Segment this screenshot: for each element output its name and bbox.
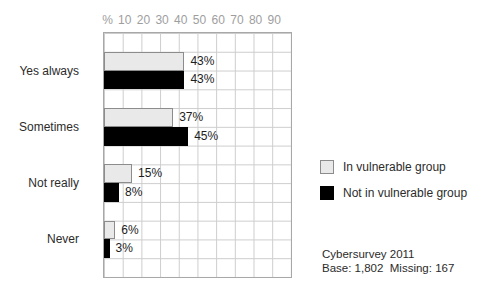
category-label-yes-always: Yes always [0,63,79,79]
value-label-sometimes-in-vulnerable-group: 37% [179,110,203,125]
axis-unit-label: % [102,13,113,27]
value-label-not-really-not-in-vulnerable-group: 8% [125,185,142,200]
source-note: Cybersurvey 2011 Base: 1,802 Missing: 16… [322,247,454,275]
axis-tick-80: 80 [249,13,262,27]
axis-tick-70: 70 [230,13,243,27]
axis-tick-40: 40 [174,13,187,27]
plot-area: 43%43%37%45%15%8%6%3% [103,32,292,278]
legend-label-in-vulnerable-group: In vulnerable group [343,160,446,174]
legend-swatch-not-in-vulnerable-group [320,186,334,200]
legend-swatch-in-vulnerable-group [320,160,334,174]
bar-not-in-vulnerable-group-never [104,239,110,258]
legend-label-not-in-vulnerable-group: Not in vulnerable group [343,186,467,200]
value-label-yes-always-in-vulnerable-group: 43% [190,54,214,69]
category-label-never: Never [0,231,79,247]
bar-in-vulnerable-group-never [104,221,115,240]
axis-tick-20: 20 [137,13,150,27]
bar-chart: % 102030405060708090 43%43%37%45%15%8%6%… [0,0,494,298]
value-label-not-really-in-vulnerable-group: 15% [138,166,162,181]
source-line-2: Base: 1,802 Missing: 167 [322,261,454,275]
bar-not-in-vulnerable-group-sometimes [104,127,188,146]
bar-in-vulnerable-group-not-really [104,164,132,183]
value-label-never-in-vulnerable-group: 6% [121,223,138,238]
bar-in-vulnerable-group-yes-always [104,52,184,71]
legend: In vulnerable groupNot in vulnerable gro… [320,160,467,212]
bar-not-in-vulnerable-group-not-really [104,183,119,202]
legend-item-in-vulnerable-group: In vulnerable group [320,160,467,174]
category-label-not-really: Not really [0,175,79,191]
category-label-sometimes: Sometimes [0,119,79,135]
value-label-yes-always-not-in-vulnerable-group: 43% [190,72,214,87]
axis-tick-30: 30 [155,13,168,27]
axis-tick-60: 60 [212,13,225,27]
axis-tick-50: 50 [193,13,206,27]
value-label-never-not-in-vulnerable-group: 3% [116,241,133,256]
bar-in-vulnerable-group-sometimes [104,108,173,127]
bar-not-in-vulnerable-group-yes-always [104,71,184,90]
legend-item-not-in-vulnerable-group: Not in vulnerable group [320,186,467,200]
axis-tick-10: 10 [118,13,131,27]
axis-tick-90: 90 [268,13,281,27]
source-line-1: Cybersurvey 2011 [322,247,454,261]
value-label-sometimes-not-in-vulnerable-group: 45% [194,129,218,144]
